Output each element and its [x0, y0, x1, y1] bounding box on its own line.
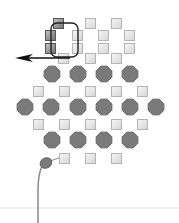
- octagon-node[interactable]: [70, 66, 86, 82]
- square-node[interactable]: [86, 87, 96, 97]
- square-node[interactable]: [112, 54, 122, 64]
- octagon-group: [17, 66, 164, 148]
- square-node[interactable]: [112, 120, 122, 130]
- square-node[interactable]: [86, 154, 96, 164]
- octagon-node[interactable]: [122, 66, 138, 82]
- square-node[interactable]: [34, 120, 44, 130]
- octagon-node[interactable]: [122, 132, 138, 148]
- square-node[interactable]: [60, 87, 70, 97]
- square-node[interactable]: [112, 19, 122, 29]
- square-node[interactable]: [60, 120, 70, 130]
- octagon-node[interactable]: [148, 99, 164, 115]
- square-node[interactable]: [138, 87, 148, 97]
- square-node[interactable]: [112, 154, 122, 164]
- square-node[interactable]: [86, 19, 96, 29]
- square-node[interactable]: [99, 31, 109, 41]
- pin-stem: [38, 166, 42, 223]
- square-node[interactable]: [99, 44, 109, 54]
- square-node[interactable]: [138, 120, 148, 130]
- square-node[interactable]: [125, 31, 135, 41]
- octagon-node[interactable]: [96, 132, 112, 148]
- square-node[interactable]: [60, 154, 70, 164]
- octagon-node[interactable]: [44, 132, 60, 148]
- octagon-node[interactable]: [96, 66, 112, 82]
- octagon-node[interactable]: [17, 99, 33, 115]
- octagon-node[interactable]: [122, 99, 138, 115]
- square-node[interactable]: [112, 87, 122, 97]
- square-node[interactable]: [34, 87, 44, 97]
- square-node[interactable]: [125, 44, 135, 54]
- octagon-node[interactable]: [44, 66, 60, 82]
- octagon-node[interactable]: [96, 99, 112, 115]
- octagon-node[interactable]: [70, 132, 86, 148]
- octagon-node[interactable]: [70, 99, 86, 115]
- diagram-canvas: [0, 0, 179, 223]
- octagon-node[interactable]: [43, 99, 59, 115]
- square-node[interactable]: [86, 120, 96, 130]
- square-node[interactable]: [86, 54, 96, 64]
